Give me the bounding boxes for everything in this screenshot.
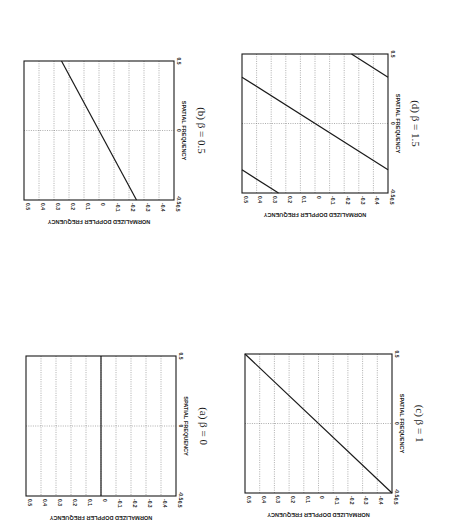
- spatial-frequency-label: SPATIAL FREQUENCY: [183, 396, 189, 456]
- svg-text:0.4: 0.4: [257, 196, 263, 203]
- svg-text:0.2: 0.2: [72, 499, 78, 506]
- doppler-frequency-label: NORMALIZED DOPPLER FREQUENCY: [47, 219, 150, 225]
- svg-text:0.3: 0.3: [272, 196, 278, 203]
- svg-text:0.5: 0.5: [178, 353, 184, 360]
- svg-text:0.4: 0.4: [261, 496, 267, 503]
- doppler-frequency-label: NORMALIZED DOPPLER FREQUENCY: [49, 515, 152, 521]
- doppler-tick-labels: 0.50.40.30.20.10-0.1-0.2-0.3-0.4-0.5: [246, 496, 399, 505]
- spatial-frequency-label: SPATIAL FREQUENCY: [395, 94, 401, 154]
- svg-text:-0.4: -0.4: [160, 203, 166, 212]
- svg-text:-0.5: -0.5: [389, 196, 395, 205]
- svg-text:-0.3: -0.3: [147, 499, 153, 508]
- doppler-tick-labels: 0.50.40.30.20.10-0.1-0.2-0.3-0.4-0.5: [25, 203, 181, 212]
- doppler-frequency-label: NORMALIZED DOPPLER FREQUENCY: [263, 212, 366, 218]
- doppler-frequency-label: NORMALIZED DOPPLER FREQUENCY: [267, 512, 370, 518]
- svg-text:-0.2: -0.2: [349, 496, 355, 505]
- svg-text:-0.5: -0.5: [393, 496, 399, 505]
- doppler-tick-labels: 0.50.40.30.20.10-0.1-0.2-0.3-0.4-0.5: [243, 196, 395, 205]
- svg-text:-0.3: -0.3: [360, 196, 366, 205]
- svg-text:-0.5: -0.5: [390, 189, 396, 198]
- svg-text:-0.3: -0.3: [145, 203, 151, 212]
- svg-text:0: 0: [319, 496, 325, 499]
- spatial-frequency-label: SPATIAL FREQUENCY: [181, 101, 187, 161]
- svg-text:0.2: 0.2: [287, 196, 293, 203]
- plot-caption: (a) β = 0: [197, 407, 210, 445]
- svg-text:-0.1: -0.1: [330, 196, 336, 205]
- plot-beta-1-5: 0.50.40.30.20.10-0.1-0.2-0.3-0.4-0.5-0.5…: [242, 51, 422, 218]
- svg-text:-0.4: -0.4: [378, 496, 384, 505]
- svg-text:0.1: 0.1: [85, 203, 91, 210]
- figure-page: 0.50.40.30.20.10-0.1-0.2-0.3-0.4-0.5-0.5…: [0, 0, 451, 530]
- plot-caption: (b) β = 0.5: [195, 107, 208, 154]
- svg-text:0: 0: [102, 499, 108, 502]
- svg-text:-0.3: -0.3: [363, 496, 369, 505]
- plot-beta-0-5: 0.50.40.30.20.10-0.1-0.2-0.3-0.4-0.5-0.5…: [24, 58, 208, 225]
- svg-text:0.5: 0.5: [390, 51, 396, 58]
- plot-beta-1: 0.50.40.30.20.10-0.1-0.2-0.3-0.4-0.5-0.5…: [245, 351, 426, 518]
- svg-text:0: 0: [316, 196, 322, 199]
- svg-text:-0.1: -0.1: [115, 203, 121, 212]
- svg-text:0.5: 0.5: [394, 351, 400, 358]
- spatial-frequency-label: SPATIAL FREQUENCY: [399, 394, 405, 454]
- plot-caption: (c) β = 1: [413, 405, 426, 443]
- svg-text:0.5: 0.5: [246, 496, 252, 503]
- svg-text:-0.5: -0.5: [178, 492, 184, 501]
- svg-text:0.4: 0.4: [42, 499, 48, 506]
- svg-text:-0.5: -0.5: [177, 499, 183, 508]
- svg-text:0.5: 0.5: [243, 196, 249, 203]
- plot-beta-0: 0.50.40.30.20.10-0.1-0.2-0.3-0.4-0.5-0.5…: [26, 353, 210, 521]
- svg-text:0.3: 0.3: [275, 496, 281, 503]
- svg-text:0.1: 0.1: [87, 499, 93, 506]
- svg-text:0.2: 0.2: [70, 203, 76, 210]
- doppler-tick-labels: 0.50.40.30.20.10-0.1-0.2-0.3-0.4-0.5: [27, 499, 183, 508]
- svg-text:0.2: 0.2: [290, 496, 296, 503]
- svg-text:-0.4: -0.4: [374, 196, 380, 205]
- svg-text:-0.4: -0.4: [162, 499, 168, 508]
- svg-text:-0.5: -0.5: [175, 203, 181, 212]
- svg-text:0: 0: [100, 203, 106, 206]
- svg-text:-0.2: -0.2: [345, 196, 351, 205]
- svg-text:-0.2: -0.2: [130, 203, 136, 212]
- svg-text:0.5: 0.5: [25, 203, 31, 210]
- svg-text:-0.1: -0.1: [117, 499, 123, 508]
- svg-text:-0.1: -0.1: [334, 496, 340, 505]
- svg-text:-0.2: -0.2: [132, 499, 138, 508]
- svg-text:0.1: 0.1: [305, 496, 311, 503]
- svg-text:-0.5: -0.5: [394, 489, 400, 498]
- svg-text:0.1: 0.1: [301, 196, 307, 203]
- svg-text:0.3: 0.3: [57, 499, 63, 506]
- svg-text:0.4: 0.4: [40, 203, 46, 210]
- svg-text:0.5: 0.5: [176, 58, 182, 65]
- svg-text:-0.5: -0.5: [176, 196, 182, 205]
- plot-caption: (d) β = 1.5: [409, 100, 422, 147]
- svg-text:0.5: 0.5: [27, 499, 33, 506]
- svg-text:0.3: 0.3: [55, 203, 61, 210]
